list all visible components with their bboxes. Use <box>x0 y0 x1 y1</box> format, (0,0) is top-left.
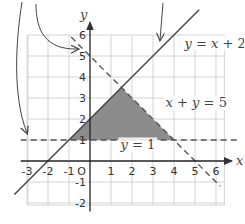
label-x-plus-y-equals-5: x + y = 5 <box>166 95 227 110</box>
x-tick-label: -1 <box>64 165 75 178</box>
pointer-arrow-intercept <box>36 4 78 49</box>
label-part: = <box>192 36 211 51</box>
y-axis-label: y <box>79 7 88 22</box>
x-tick-label: 1 <box>108 165 115 178</box>
x-tick-label: 3 <box>150 165 157 178</box>
x-axis-label: x <box>236 153 244 168</box>
y-tick-label: 3 <box>79 92 86 105</box>
y-tick-label: 4 <box>79 71 86 84</box>
x-tick-label: 5 <box>192 165 199 178</box>
y-tick-label: 1 <box>79 134 86 147</box>
y-tick-label: 2 <box>79 113 86 126</box>
label-y-equals-1: y = 1 <box>119 137 155 152</box>
y-tick-label: -2 <box>75 197 86 210</box>
label-part: + <box>173 95 192 110</box>
y-tick-label: 5 <box>79 50 86 63</box>
label-part: = 5 <box>199 95 226 110</box>
line-x-plus-y-equals-5 <box>71 37 220 186</box>
x-tick-label: 2 <box>129 165 136 178</box>
pointer-arrow-y1 <box>17 2 27 133</box>
pointer-arrow-line <box>160 3 163 40</box>
origin-label: O <box>77 165 86 178</box>
label-part: = 1 <box>128 137 155 152</box>
x-tick-label: 4 <box>171 165 178 178</box>
x-tick-label: -3 <box>22 165 33 178</box>
x-tick-label: -2 <box>43 165 54 178</box>
y-tick-label: 6 <box>79 29 86 42</box>
label-part: + 2 <box>218 36 244 51</box>
label-y-equals-x-plus-2: y = x + 2 <box>184 36 245 51</box>
coordinate-diagram: xy -3-2-1123456654321-1-2O y = x + 2x + … <box>0 0 244 224</box>
x-tick-label: 6 <box>213 165 220 178</box>
